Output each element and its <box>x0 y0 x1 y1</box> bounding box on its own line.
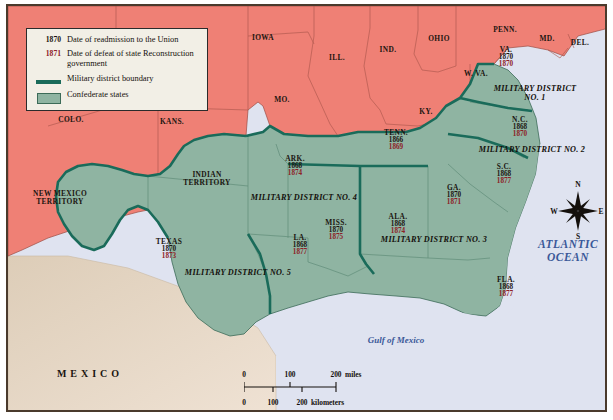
compass-rose: N S E W <box>549 178 607 240</box>
scale-km-tick-100: 100 <box>267 398 278 407</box>
legend-label-readmission: Date of readmission to the Union <box>67 35 178 45</box>
legend-row-boundary: Military district boundary <box>33 74 200 86</box>
legend-label-boundary: Military district boundary <box>67 74 154 84</box>
legend-label-confederate: Confederate states <box>67 90 129 100</box>
scale-miles-numbers: 0 100 200 miles <box>244 370 384 380</box>
military-district-line-icon <box>36 80 61 83</box>
map-legend: 1870 Date of readmission to the Union 18… <box>26 28 208 111</box>
legend-key-boundary <box>33 74 67 86</box>
scale-km-unit: kilometers <box>311 398 344 407</box>
confederate-swatch-icon <box>37 93 61 104</box>
legend-row-defeat: 1871 Date of defeat of state Reconstruct… <box>33 49 200 69</box>
map-frame: 1870 Date of readmission to the Union 18… <box>6 4 607 412</box>
scale-miles-tick-0: 0 <box>242 370 246 379</box>
compass-west-label: W <box>550 207 558 216</box>
legend-key-readmission-date: 1870 <box>33 35 67 44</box>
scale-km-tick-200: 200 <box>296 398 307 407</box>
scale-bar: 0 100 200 miles 0 100 200 kilometers <box>244 370 384 408</box>
map-root: 1870 Date of readmission to the Union 18… <box>0 0 613 420</box>
scale-miles-tick-100: 100 <box>284 370 295 379</box>
scale-bar-graphic <box>244 380 384 394</box>
legend-key-confederate <box>33 90 67 104</box>
compass-south-label: S <box>576 232 580 241</box>
scale-miles-unit: miles <box>345 370 361 379</box>
scale-km-tick-0: 0 <box>242 398 246 407</box>
scale-miles-tick-200: 200 <box>330 370 341 379</box>
compass-east-label: E <box>598 207 603 216</box>
legend-row-readmission: 1870 Date of readmission to the Union <box>33 35 200 45</box>
compass-north-label: N <box>575 180 580 189</box>
legend-row-confederate: Confederate states <box>33 90 200 104</box>
legend-key-defeat-date: 1871 <box>33 49 67 58</box>
scale-km-numbers: 0 100 200 kilometers <box>244 398 384 408</box>
legend-label-defeat: Date of defeat of state Reconstruction g… <box>67 49 200 69</box>
